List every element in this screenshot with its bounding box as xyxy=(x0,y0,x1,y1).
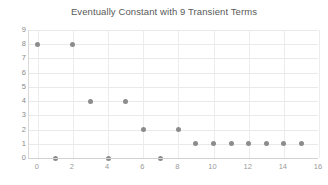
data-point xyxy=(193,141,198,146)
gridline-vertical xyxy=(214,30,215,158)
data-point xyxy=(281,141,286,146)
data-point xyxy=(299,141,304,146)
data-point xyxy=(35,42,40,47)
x-axis-tick-label: 8 xyxy=(175,163,179,171)
plot-area xyxy=(28,30,318,158)
data-point xyxy=(70,42,75,47)
gridline-vertical xyxy=(249,30,250,158)
data-point xyxy=(141,127,146,132)
y-axis-tick-label: 4 xyxy=(4,97,26,105)
data-point xyxy=(246,141,251,146)
x-axis-tick-label: 12 xyxy=(244,163,252,171)
x-axis-tick-label: 2 xyxy=(70,163,74,171)
y-axis-tick-label: 2 xyxy=(4,126,26,134)
gridline-vertical xyxy=(38,30,39,158)
y-axis-tick-label: 5 xyxy=(4,83,26,91)
y-axis-tick-label: 3 xyxy=(4,112,26,120)
data-point xyxy=(176,127,181,132)
data-point xyxy=(211,141,216,146)
y-axis-tick-label: 8 xyxy=(4,40,26,48)
x-axis-tick-label: 14 xyxy=(279,163,287,171)
y-axis-tick-labels: 0123456789 xyxy=(0,0,26,185)
data-point xyxy=(264,141,269,146)
x-axis-tick-label: 16 xyxy=(314,163,322,171)
y-axis-tick-label: 7 xyxy=(4,55,26,63)
gridline-vertical xyxy=(319,30,320,158)
y-axis-tick-label: 1 xyxy=(4,140,26,148)
gridline-vertical xyxy=(108,30,109,158)
gridline-vertical xyxy=(284,30,285,158)
gridline-vertical xyxy=(143,30,144,158)
x-axis-tick-label: 4 xyxy=(105,163,109,171)
gridline-vertical xyxy=(178,30,179,158)
x-axis-tick-label: 10 xyxy=(208,163,216,171)
gridline-vertical xyxy=(73,30,74,158)
y-axis-tick-label: 6 xyxy=(4,69,26,77)
data-point xyxy=(229,141,234,146)
y-axis-tick-label: 0 xyxy=(4,154,26,162)
data-point xyxy=(88,99,93,104)
chart-title: Eventually Constant with 9 Transient Ter… xyxy=(0,6,328,17)
y-axis-tick-label: 9 xyxy=(4,26,26,34)
x-axis-tick-label: 6 xyxy=(140,163,144,171)
chart-figure: Eventually Constant with 9 Transient Ter… xyxy=(0,0,328,185)
data-point xyxy=(123,99,128,104)
x-axis-tick-label: 0 xyxy=(35,163,39,171)
x-axis-line xyxy=(28,158,318,159)
